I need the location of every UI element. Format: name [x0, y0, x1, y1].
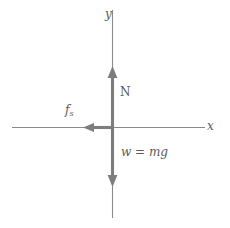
static-friction-arrowhead: [83, 123, 94, 132]
static-friction-label: fs: [65, 104, 74, 118]
vector-static-friction-force: [83, 123, 113, 132]
static-friction-label-subscript: s: [69, 109, 73, 118]
weight-force-label: w = mg: [121, 146, 168, 158]
diagram-canvas: [0, 0, 230, 228]
vector-weight-force: [108, 127, 118, 187]
free-body-diagram-figure: y x fs N w = mg: [0, 0, 230, 228]
normal-force-label: N: [120, 86, 131, 98]
normal-force-arrowhead: [108, 66, 118, 78]
weight-force-arrowhead: [108, 175, 118, 187]
vector-normal-force: [108, 66, 118, 127]
x-axis-label: x: [207, 120, 214, 132]
y-axis-label: y: [105, 8, 112, 20]
